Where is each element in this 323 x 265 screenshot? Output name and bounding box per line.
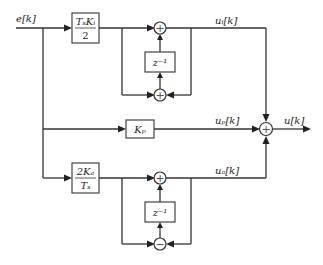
- derivative-gain-denominator: Tₛ: [80, 180, 90, 191]
- sum-sign: +: [155, 89, 164, 102]
- sum-sign: −: [155, 238, 164, 251]
- proportional-gain-block: Kₚ: [126, 120, 154, 138]
- derivative-gain-block: 2Kₐ Tₛ: [72, 163, 99, 193]
- ud-label: uₐ[k]: [215, 165, 239, 176]
- output-label: u[k]: [284, 115, 304, 126]
- pid-block-diagram: e[k] TₛKᵢ 2 + + z⁻¹ uᵢ[k] Kₚ: [0, 0, 323, 265]
- arrowhead: [252, 126, 260, 133]
- arrowhead: [166, 241, 174, 248]
- input-label: e[k]: [16, 13, 36, 24]
- ui-label: uᵢ[k]: [215, 15, 237, 26]
- derivative-gain-numerator: 2Kₐ: [76, 166, 95, 177]
- arrowhead: [166, 92, 174, 99]
- up-label: uₚ[k]: [215, 115, 239, 126]
- delay-label: z⁻¹: [152, 207, 168, 218]
- delay-block-bottom: z⁻¹: [145, 202, 175, 222]
- sum-sign: +: [155, 172, 164, 185]
- arrowhead: [64, 25, 72, 32]
- integral-gain-numerator: TₛKᵢ: [76, 16, 96, 27]
- arrowhead: [157, 222, 163, 228]
- arrowhead: [263, 136, 270, 144]
- arrowhead: [64, 175, 72, 182]
- delay-label: z⁻¹: [152, 57, 168, 68]
- arrowhead: [263, 114, 270, 122]
- sum-sign: +: [261, 123, 270, 136]
- arrowhead: [118, 126, 126, 133]
- proportional-gain-label: Kₚ: [133, 124, 145, 135]
- sum-sign: +: [155, 22, 164, 35]
- integral-gain-denominator: 2: [82, 30, 88, 41]
- arrowhead: [157, 72, 163, 78]
- integral-gain-block: TₛKᵢ 2: [72, 13, 99, 43]
- arrowhead: [303, 126, 311, 133]
- delay-block-top: z⁻¹: [145, 52, 175, 72]
